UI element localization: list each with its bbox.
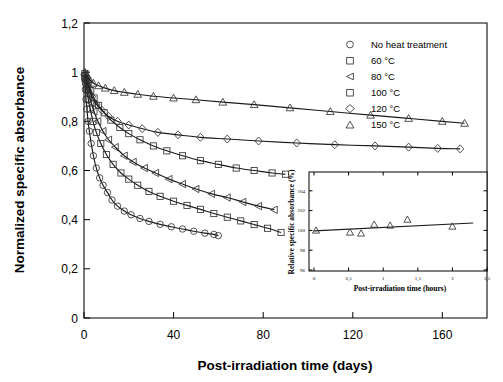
inset-y-axis-title: Relative specific absorbance (%) bbox=[287, 169, 296, 274]
left-triangle-icon bbox=[346, 73, 353, 80]
series-150-c bbox=[81, 68, 468, 126]
x-tick-label-120: 120 bbox=[343, 328, 363, 342]
circle-marker bbox=[215, 232, 221, 238]
legend-item-100c[interactable]: 100 °C bbox=[347, 87, 401, 98]
x-axis-title: Post-irradiation time (days) bbox=[198, 358, 373, 373]
x-tick-label-80: 80 bbox=[257, 328, 271, 342]
y-tick-label-0.6: 0,6 bbox=[61, 164, 78, 178]
chart-canvas: 1,2 1 0,8 0,6 0,4 0,2 0 Normalized speci… bbox=[0, 0, 503, 382]
square-icon bbox=[347, 89, 354, 96]
y-axis-group: 1,2 1 0,8 0,6 0,4 0,2 0 Normalized speci… bbox=[12, 17, 90, 326]
inset-frame bbox=[309, 172, 487, 271]
y-tick-label-1.0: 1 bbox=[71, 66, 78, 80]
y-tick-label-1.2: 1,2 bbox=[61, 17, 78, 31]
x-tick-label-160: 160 bbox=[432, 328, 452, 342]
inset-x-tick-0.5: 0,5 bbox=[345, 276, 352, 282]
inset-y-tick-102: 102 bbox=[298, 208, 306, 213]
y-axis-ticks bbox=[84, 23, 90, 318]
triangle-icon bbox=[346, 121, 354, 128]
series-60-c bbox=[82, 73, 285, 236]
inset-chart: 104 102 100 98 96 0 0,5 1 1,5 bbox=[287, 169, 491, 293]
y-tick-label-0.2: 0,2 bbox=[61, 262, 78, 276]
y-axis-title: Normalized specific absorbance bbox=[12, 66, 27, 273]
legend-label: 150 °C bbox=[371, 119, 400, 130]
inset-y-tick-96: 96 bbox=[300, 268, 306, 273]
legend-label: 100 °C bbox=[371, 87, 400, 98]
x-tick-label-40: 40 bbox=[167, 328, 181, 342]
legend-label: 80 °C bbox=[371, 71, 395, 82]
y-tick-label-0: 0 bbox=[71, 312, 78, 326]
inset-x-tick-2: 2 bbox=[451, 276, 454, 281]
x-axis-group: 0 40 80 120 160 Post-irradiation time (d… bbox=[81, 312, 453, 373]
series-120-c bbox=[81, 71, 464, 153]
legend-item-no-heat-treatment[interactable]: No heat treatment bbox=[347, 39, 448, 50]
square-marker bbox=[278, 229, 284, 235]
inset-x-tick-1.5: 1,5 bbox=[415, 276, 422, 282]
figure-root: 1,2 1 0,8 0,6 0,4 0,2 0 Normalized speci… bbox=[0, 0, 503, 382]
y-tick-label-0.8: 0,8 bbox=[61, 115, 78, 129]
legend-item-60c[interactable]: 60 °C bbox=[347, 55, 395, 66]
diamond-icon bbox=[346, 105, 355, 113]
inset-y-tick-104: 104 bbox=[298, 189, 306, 194]
legend-item-120c[interactable]: 120 °C bbox=[346, 103, 401, 114]
x-tick-label-0: 0 bbox=[81, 328, 88, 342]
inset-y-tick-98: 98 bbox=[300, 248, 306, 253]
square-icon bbox=[347, 57, 354, 64]
inset-x-tick-1: 1 bbox=[382, 276, 385, 281]
legend-label: 120 °C bbox=[371, 103, 400, 114]
circle-icon bbox=[347, 41, 354, 48]
legend-item-150c[interactable]: 150 °C bbox=[346, 119, 400, 130]
legend-item-80c[interactable]: 80 °C bbox=[346, 71, 395, 82]
legend: No heat treatment 60 °C 80 °C 100 °C bbox=[346, 39, 448, 130]
inset-x-axis-title: Post-irradiation time (hours) bbox=[354, 284, 447, 293]
y-tick-label-0.4: 0,4 bbox=[61, 213, 78, 227]
legend-label: 60 °C bbox=[371, 55, 395, 66]
inset-y-tick-100: 100 bbox=[298, 228, 306, 233]
legend-label: No heat treatment bbox=[371, 39, 447, 50]
x-axis-ticks bbox=[84, 312, 442, 318]
inset-x-tick-0: 0 bbox=[313, 276, 316, 281]
